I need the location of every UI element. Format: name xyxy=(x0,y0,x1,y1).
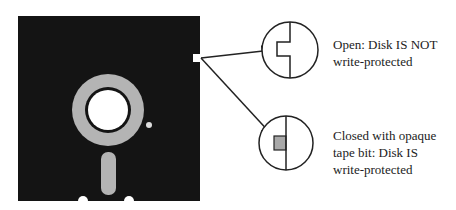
label-line: Open: Disk IS NOT xyxy=(333,36,437,53)
hub-hole xyxy=(88,90,128,130)
label-line: write-protected xyxy=(333,161,436,178)
head-slot xyxy=(101,152,116,195)
index-hole xyxy=(146,122,152,128)
floppy-diagram xyxy=(0,0,456,210)
label-line: write-protected xyxy=(333,53,437,70)
floppy-disk xyxy=(18,16,201,206)
open-callout-label: Open: Disk IS NOT write-protected xyxy=(333,36,437,70)
write-protect-notch xyxy=(193,54,201,62)
closed-notch-detail xyxy=(259,116,313,170)
label-line: tape bit: Disk IS xyxy=(333,144,436,161)
open-notch-detail xyxy=(262,22,318,78)
closed-callout-label: Closed with opaque tape bit: Disk IS wri… xyxy=(333,127,436,178)
label-line: Closed with opaque xyxy=(333,127,436,144)
